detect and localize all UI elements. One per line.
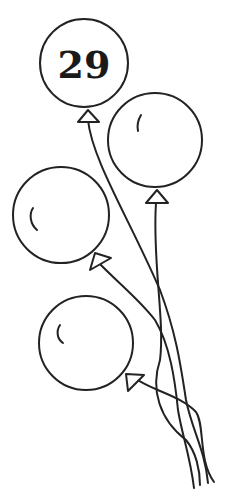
- highlight-mark: [138, 115, 141, 131]
- highlight-mark: [58, 325, 63, 343]
- balloon-number-label: 29: [58, 42, 111, 87]
- balloon-strings: [88, 120, 214, 488]
- balloons-illustration: 29: [0, 0, 225, 501]
- balloon-2: [108, 93, 202, 203]
- balloon-3: [13, 167, 111, 270]
- balloon-4: [39, 296, 144, 391]
- balloon-29: 29: [40, 19, 128, 122]
- highlight-mark: [31, 208, 37, 230]
